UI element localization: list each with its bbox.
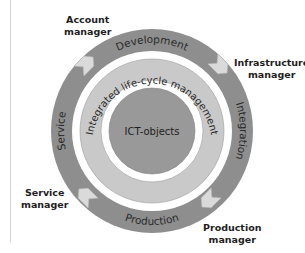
role-line: manager: [64, 26, 111, 38]
role-infrastructure-manager: Infrastructure manager: [234, 57, 305, 81]
role-line: Infrastructure: [234, 57, 305, 69]
role-line: Account: [64, 14, 111, 26]
role-production-manager: Production manager: [203, 222, 261, 246]
role-line: Service: [21, 187, 68, 199]
lifecycle-diagram: Development Integration Production Servi…: [0, 0, 305, 253]
role-service-manager: Service manager: [21, 187, 68, 211]
role-account-manager: Account manager: [64, 14, 111, 38]
center-label: ICT-objects: [125, 126, 180, 137]
role-line: manager: [203, 234, 261, 246]
role-line: manager: [21, 199, 68, 211]
segment-label-service: Service: [54, 111, 68, 152]
role-line: manager: [234, 69, 305, 81]
role-line: Production: [203, 222, 261, 234]
